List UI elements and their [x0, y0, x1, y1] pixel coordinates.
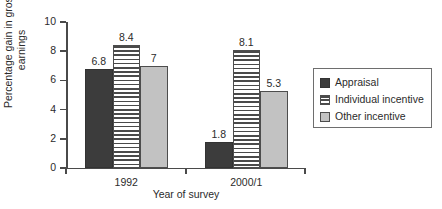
chart-legend: AppraisalIndividual incentiveOther incen… [313, 68, 432, 128]
y-axis-tick [60, 109, 66, 111]
x-axis-tick [185, 168, 187, 174]
y-axis-tick-label: 2 [16, 133, 56, 143]
y-axis-tick [60, 138, 66, 140]
bar-individual-2000-1 [233, 50, 261, 168]
y-axis-tick [60, 50, 66, 52]
bar-other-2000-1 [260, 91, 288, 168]
bar-other-1992 [140, 66, 168, 168]
x-axis-tick-label: 2000/1 [216, 177, 276, 188]
legend-item-other: Other incentive [320, 108, 431, 125]
x-axis-title: Year of survey [66, 189, 306, 200]
legend-swatch-individual [320, 95, 330, 105]
y-axis-tick-label: 0 [16, 162, 56, 172]
legend-label: Appraisal [335, 77, 379, 88]
y-axis-tick [60, 21, 66, 23]
x-axis-tick-label: 1992 [96, 177, 156, 188]
bar-value-label: 8.4 [106, 32, 146, 43]
legend-item-appraisal: Appraisal [320, 74, 431, 91]
x-axis-tick [65, 168, 67, 174]
legend-label: Individual incentive [335, 94, 424, 105]
bar-appraisal-1992 [85, 69, 113, 168]
y-axis-line [66, 22, 68, 169]
bar-value-label: 5.3 [254, 78, 294, 89]
x-axis-tick [304, 168, 306, 174]
bar-value-label: 8.1 [226, 37, 266, 48]
legend-label: Other incentive [335, 111, 406, 122]
y-axis-tick [60, 80, 66, 82]
legend-swatch-appraisal [320, 78, 330, 88]
bar-chart: 0246810 Percentage gain in gross earning… [0, 0, 442, 209]
y-axis-title: Percentage gain in gross earnings [2, 0, 28, 115]
bar-appraisal-2000-1 [205, 142, 233, 168]
legend-swatch-other [320, 112, 330, 122]
legend-item-individual: Individual incentive [320, 91, 431, 108]
bar-value-label: 7 [134, 53, 174, 64]
